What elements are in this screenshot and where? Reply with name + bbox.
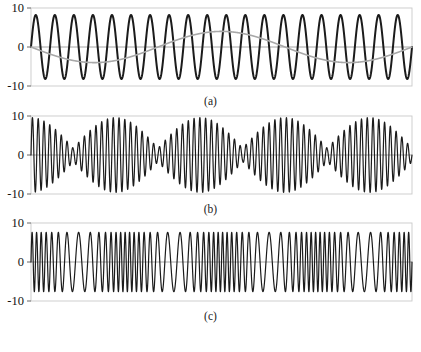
- waveform-plot-c: 100-10: [0, 215, 421, 311]
- y-tick-label: -10: [7, 187, 24, 201]
- caption-c: (c): [0, 311, 421, 323]
- waveform-plot-b: 100-10: [0, 108, 421, 204]
- waveform-plot-a: 100-10: [0, 0, 421, 96]
- figure-root: 100-10 (a) 100-10 (b) 100-10 (c): [0, 0, 421, 352]
- y-tick-label: 10: [12, 109, 25, 123]
- y-tick-label: 10: [12, 216, 25, 230]
- y-tick-label: 0: [18, 40, 24, 54]
- y-tick-label: 0: [18, 255, 24, 269]
- y-tick-label: 10: [12, 1, 25, 15]
- panel-c: 100-10 (c): [0, 215, 421, 323]
- panel-a-plot: 100-10: [0, 0, 421, 96]
- y-tick-label: -10: [7, 294, 24, 308]
- panel-a: 100-10 (a): [0, 0, 421, 108]
- y-tick-label: 0: [18, 148, 24, 162]
- panel-b: 100-10 (b): [0, 108, 421, 216]
- caption-a: (a): [0, 96, 421, 108]
- y-tick-label: -10: [7, 79, 24, 93]
- caption-b: (b): [0, 204, 421, 216]
- panel-b-plot: 100-10: [0, 108, 421, 204]
- panel-c-plot: 100-10: [0, 215, 421, 311]
